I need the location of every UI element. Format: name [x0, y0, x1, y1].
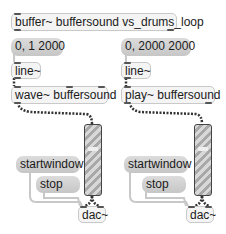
gain-slider-knob[interactable] [88, 147, 98, 151]
startwindow-message-right-label: startwindow [128, 157, 191, 171]
dac-object-right-label: dac~ [190, 208, 216, 222]
gain-slider-right[interactable] [194, 124, 212, 196]
ramp-message-right-label: 0, 2000 2000 [125, 39, 195, 53]
stop-message-left[interactable]: stop [36, 176, 80, 193]
startwindow-message-left-label: startwindow [20, 157, 83, 171]
gain-slider-left[interactable] [84, 124, 102, 196]
stop-message-left-label: stop [40, 177, 63, 191]
inlet[interactable] [124, 62, 131, 64]
dac-object-right[interactable]: dac~ [186, 206, 214, 223]
ramp-message-right[interactable]: 0, 2000 2000 [121, 38, 191, 56]
stop-message-right-label: stop [146, 177, 169, 191]
inlet[interactable] [66, 86, 73, 88]
startwindow-message-left[interactable]: startwindow [16, 156, 80, 173]
line-object-right[interactable]: line~ [121, 62, 151, 79]
line-object-right-label: line~ [125, 64, 151, 78]
outlet[interactable] [167, 29, 174, 31]
startwindow-message-right[interactable]: startwindow [124, 156, 188, 173]
wave-object-label: wave~ buffersound [15, 88, 117, 102]
inlet[interactable] [80, 206, 87, 208]
outlet[interactable] [205, 102, 212, 104]
dac-object-left-label: dac~ [82, 208, 108, 222]
outlet[interactable] [124, 102, 131, 104]
buffer-object-label: buffer~ buffersound vs_drums_loop [15, 15, 204, 29]
inlet[interactable] [98, 86, 105, 88]
dac-object-left[interactable]: dac~ [78, 206, 106, 223]
ramp-message-left[interactable]: 0, 1 2000 [11, 38, 63, 56]
outlet[interactable] [14, 29, 21, 31]
stop-message-right[interactable]: stop [142, 176, 186, 193]
inlet[interactable] [124, 86, 131, 88]
gain-slider-knob[interactable] [198, 147, 208, 151]
ramp-message-left-label: 0, 1 2000 [15, 39, 65, 53]
play-object-label: play~ buffersound [125, 88, 221, 102]
patch-cords [0, 0, 226, 234]
line-object-left[interactable]: line~ [11, 62, 41, 79]
inlet[interactable] [205, 206, 212, 208]
outlet[interactable] [14, 77, 21, 79]
inlet[interactable] [188, 206, 195, 208]
outlet[interactable] [14, 102, 21, 104]
inlet[interactable] [14, 86, 21, 88]
inlet[interactable] [14, 62, 21, 64]
wave-object[interactable]: wave~ buffersound [11, 86, 108, 104]
inlet[interactable] [97, 206, 104, 208]
play-object[interactable]: play~ buffersound [121, 86, 215, 104]
outlet[interactable] [124, 77, 131, 79]
buffer-object[interactable]: buffer~ buffersound vs_drums_loop [11, 13, 177, 31]
inlet[interactable] [14, 13, 21, 15]
line-object-left-label: line~ [15, 64, 41, 78]
